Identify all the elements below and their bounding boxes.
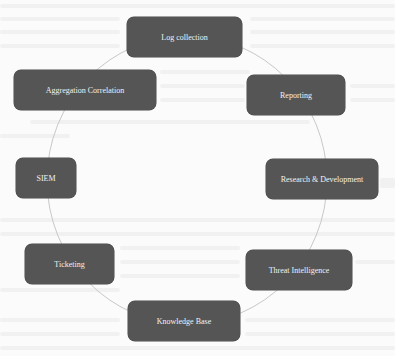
node-ticketing: Ticketing	[25, 244, 114, 284]
node-label: Aggregation Correlation	[46, 86, 124, 95]
node-label: Reporting	[280, 91, 312, 100]
node-label: Threat Intelligence	[269, 266, 330, 275]
node-knowledge-base: Knowledge Base	[128, 301, 240, 341]
node-reporting: Reporting	[247, 75, 345, 115]
node-label: Ticketing	[54, 260, 84, 269]
node-label: Log collection	[161, 33, 207, 42]
node-log-collection: Log collection	[127, 17, 242, 57]
node-label: Knowledge Base	[157, 317, 211, 326]
node-label: SIEM	[36, 174, 55, 183]
node-threat-intelligence: Threat Intelligence	[246, 250, 352, 290]
node-aggregation-correlation: Aggregation Correlation	[14, 70, 156, 110]
node-label: Research & Development	[281, 175, 364, 184]
node-research-development: Research & Development	[266, 159, 378, 199]
node-siem: SIEM	[16, 158, 76, 198]
